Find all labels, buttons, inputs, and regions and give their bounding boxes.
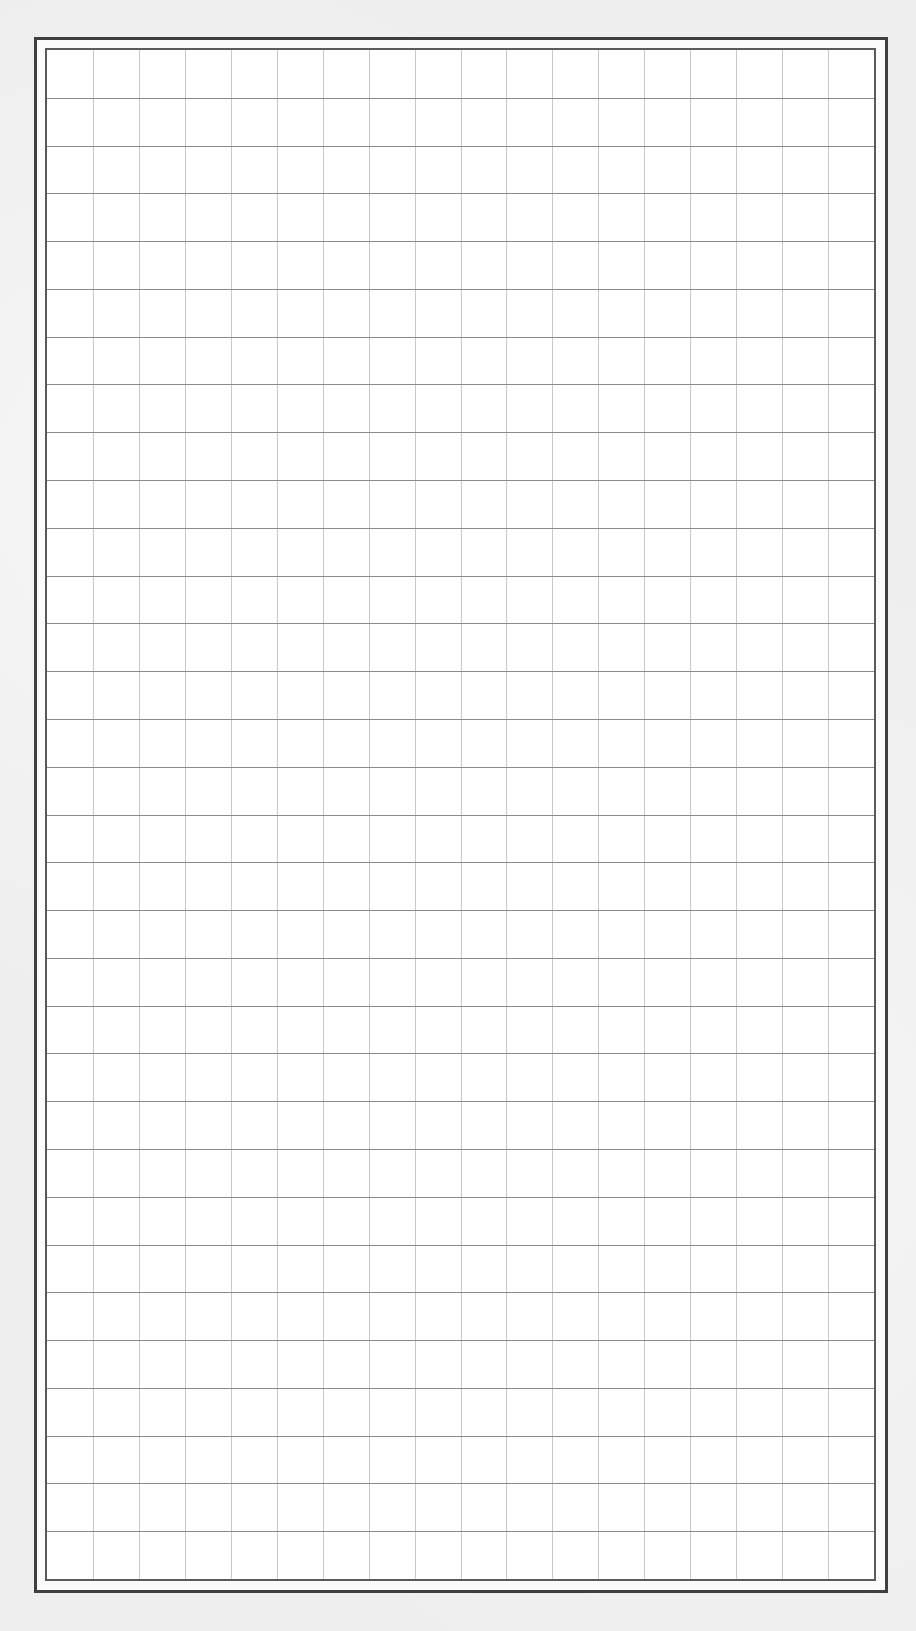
grid-horizontal-line [47, 910, 874, 911]
grid-horizontal-line [47, 958, 874, 959]
grid-horizontal-line [47, 1436, 874, 1437]
grid-horizontal-line [47, 289, 874, 290]
grid-horizontal-line [47, 193, 874, 194]
grid-horizontal-line [47, 528, 874, 529]
grid-horizontal-line [47, 815, 874, 816]
grid-horizontal-line [47, 1292, 874, 1293]
grid-horizontal-line [47, 623, 874, 624]
grid-horizontal-line [47, 1149, 874, 1150]
grid-horizontal-line [47, 1197, 874, 1198]
grid-horizontal-line [47, 98, 874, 99]
grid-horizontal-line [47, 576, 874, 577]
grid-horizontal-line [47, 1531, 874, 1532]
grid-horizontal-line [47, 719, 874, 720]
grid-horizontal-line [47, 671, 874, 672]
grid-horizontal-line [47, 337, 874, 338]
grid-area [45, 48, 876, 1581]
grid-horizontal-line [47, 1053, 874, 1054]
grid-horizontal-line [47, 767, 874, 768]
grid-horizontal-line [47, 432, 874, 433]
grid-horizontal-line [47, 1245, 874, 1246]
grid-horizontal-line [47, 480, 874, 481]
grid-horizontal-line [47, 1340, 874, 1341]
grid-horizontal-line [47, 146, 874, 147]
grid-horizontal-line [47, 241, 874, 242]
grid-horizontal-line [47, 384, 874, 385]
grid-horizontal-line [47, 1388, 874, 1389]
grid-horizontal-line [47, 862, 874, 863]
grid-horizontal-line [47, 1101, 874, 1102]
grid-horizontal-line [47, 1006, 874, 1007]
grid-horizontal-line [47, 1483, 874, 1484]
